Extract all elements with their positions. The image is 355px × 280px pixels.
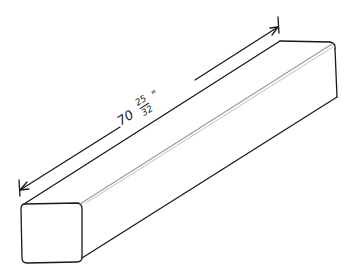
technical-drawing: 70 25 32 " — [0, 0, 355, 280]
front-face — [21, 203, 82, 263]
dimension-line-left — [20, 127, 120, 190]
dimension-tick-right — [278, 17, 279, 33]
back-right-edge — [335, 49, 337, 97]
dimension-tick-left — [19, 180, 20, 196]
back-top-edge — [280, 41, 330, 42]
dimension-line-right — [195, 27, 278, 80]
beam-drawing-svg — [0, 0, 355, 280]
arrowhead-left — [20, 182, 29, 190]
top-left-edge — [24, 41, 280, 204]
